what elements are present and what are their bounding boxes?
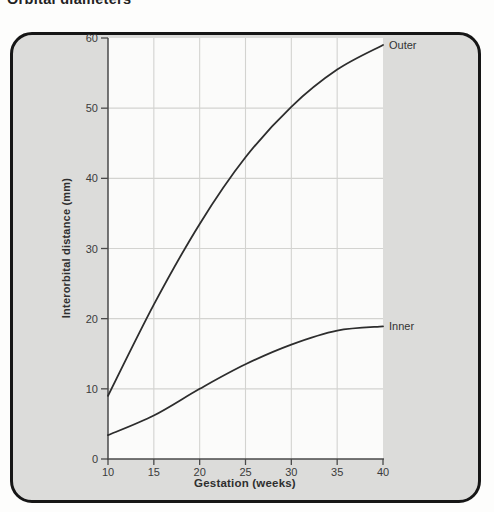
screen: Orbital diameters Interorbital distance … xyxy=(0,0,494,512)
x-tick-label-15: 15 xyxy=(139,466,169,478)
x-axis-title: Gestation (weeks) xyxy=(194,477,296,489)
series-label-inner: Inner xyxy=(389,320,414,332)
page-title: Orbital diameters xyxy=(7,0,131,7)
y-tick-label-40: 40 xyxy=(70,172,98,184)
y-tick-label-20: 20 xyxy=(70,313,98,325)
plot-area xyxy=(108,38,383,459)
y-tick-label-50: 50 xyxy=(70,102,98,114)
series-label-outer: Outer xyxy=(389,39,417,51)
x-tick-label-35: 35 xyxy=(322,466,352,478)
x-tick-label-10: 10 xyxy=(93,466,123,478)
x-tick-label-30: 30 xyxy=(276,466,306,478)
x-tick-label-25: 25 xyxy=(231,466,261,478)
x-tick-label-40: 40 xyxy=(368,466,398,478)
y-tick-label-10: 10 xyxy=(70,383,98,395)
y-tick-label-60: 60 xyxy=(70,32,98,44)
y-tick-label-30: 30 xyxy=(70,243,98,255)
x-tick-label-20: 20 xyxy=(185,466,215,478)
y-tick-label-0: 0 xyxy=(70,453,98,465)
